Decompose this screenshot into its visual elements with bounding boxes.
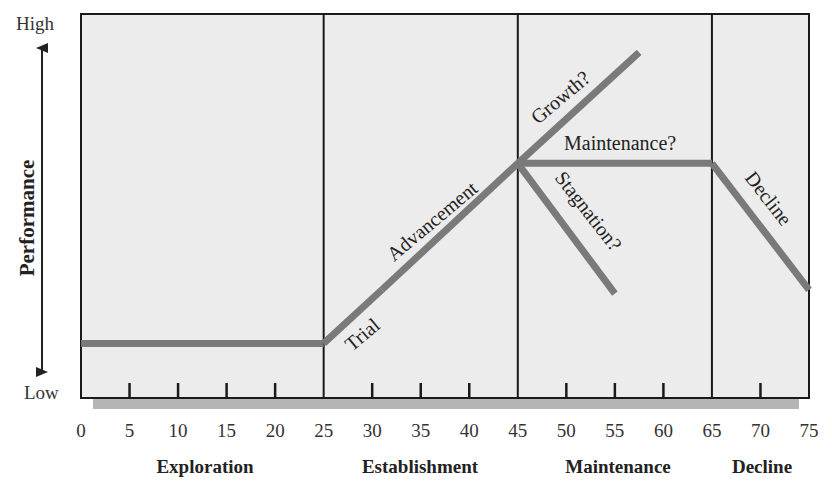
- stage-label-maintenance: Maintenance: [565, 456, 671, 477]
- x-tick-labels: 051015202530354045505560657075: [76, 420, 818, 441]
- x-tick-label: 20: [266, 420, 285, 441]
- y-axis-title: Performance: [15, 160, 39, 277]
- x-tick-label: 45: [508, 420, 527, 441]
- x-tick-label: 55: [605, 420, 624, 441]
- x-tick-label: 15: [217, 420, 236, 441]
- annotation-maintenance: Maintenance?: [564, 132, 676, 154]
- x-tick-label: 60: [654, 420, 673, 441]
- x-tick-label: 50: [557, 420, 576, 441]
- stage-label-exploration: Exploration: [156, 456, 254, 477]
- x-tick-label: 10: [169, 420, 188, 441]
- x-tick-label: 25: [314, 420, 333, 441]
- y-low-label: Low: [24, 382, 59, 403]
- axis-shadow: [93, 399, 799, 409]
- x-tick-label: 75: [800, 420, 819, 441]
- x-tick-label: 65: [702, 420, 721, 441]
- x-tick-label: 40: [460, 420, 479, 441]
- x-tick-label: 5: [125, 420, 135, 441]
- x-tick-label: 30: [363, 420, 382, 441]
- y-high-label: High: [16, 13, 55, 34]
- x-tick-label: 0: [76, 420, 86, 441]
- stage-label-establishment: Establishment: [362, 456, 479, 477]
- x-tick-label: 70: [751, 420, 770, 441]
- x-tick-label: 35: [411, 420, 430, 441]
- stage-label-decline: Decline: [732, 456, 792, 477]
- career-stages-diagram: High Low Performance 0510152025303540455…: [0, 0, 832, 492]
